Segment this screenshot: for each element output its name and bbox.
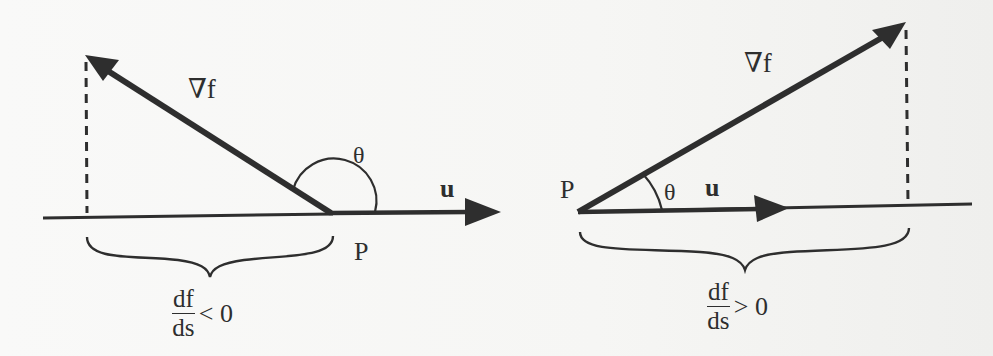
- right-theta-label: θ: [664, 180, 676, 204]
- left-u-arrowhead-icon: [465, 198, 501, 226]
- right-dashed-projection: [906, 30, 908, 203]
- right-gradient-arrowhead-icon: [872, 22, 906, 49]
- left-u-label: u: [440, 176, 454, 202]
- left-theta-label: θ: [353, 143, 365, 167]
- right-gradient-vector-shaft: [578, 36, 885, 212]
- left-fraction-numerator: df: [172, 286, 195, 314]
- right-theta-arc: [643, 174, 662, 210]
- right-brace: [580, 228, 909, 270]
- left-panel: [43, 55, 501, 277]
- right-point-label: P: [560, 177, 574, 203]
- diagram-canvas: ∇f θ u P df ds < 0 ∇f θ u P df ds > 0: [0, 0, 993, 356]
- left-point-label: P: [354, 239, 368, 265]
- right-panel: [578, 22, 972, 270]
- left-gradient-vector-shaft: [108, 71, 331, 213]
- right-derivative-fraction: df ds: [707, 279, 730, 335]
- right-fraction-denominator: ds: [707, 307, 729, 334]
- left-derivative-fraction: df ds: [172, 286, 195, 342]
- right-u-vector-shaft: [578, 209, 760, 212]
- left-fraction-relation: < 0: [199, 299, 233, 329]
- right-fraction-numerator: df: [707, 279, 730, 307]
- left-fraction-denominator: ds: [172, 314, 194, 341]
- diagram-svg: [0, 0, 993, 356]
- right-fraction-relation: > 0: [734, 292, 768, 322]
- right-gradient-label: ∇f: [744, 50, 772, 77]
- right-derivative-expression: df ds > 0: [707, 279, 768, 335]
- left-gradient-label: ∇f: [188, 76, 216, 103]
- right-u-label: u: [705, 175, 719, 201]
- left-dashed-projection: [86, 62, 87, 213]
- left-derivative-expression: df ds < 0: [172, 286, 233, 342]
- left-baseline: [43, 214, 333, 218]
- right-u-arrowhead-icon: [754, 195, 789, 222]
- left-u-vector-shaft: [330, 212, 470, 213]
- left-brace: [87, 236, 333, 277]
